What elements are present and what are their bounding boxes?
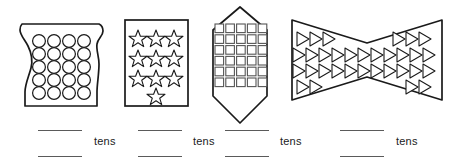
square-icon bbox=[215, 78, 224, 87]
square-icon bbox=[237, 56, 246, 65]
square-icon bbox=[237, 35, 246, 44]
circle-icon bbox=[78, 61, 91, 74]
answer-blank-bottom[interactable] bbox=[340, 156, 384, 157]
answer-blank-bottom[interactable] bbox=[225, 156, 269, 157]
square-icon bbox=[237, 46, 246, 55]
square-icon bbox=[215, 67, 224, 76]
square-icon bbox=[237, 24, 246, 33]
square-icon bbox=[226, 24, 235, 33]
circle-icon bbox=[48, 48, 61, 61]
circle-icon bbox=[33, 61, 46, 74]
square-icon bbox=[258, 67, 267, 76]
circle-icon bbox=[33, 48, 46, 61]
circle-icon bbox=[48, 35, 61, 48]
problem-4: tens bbox=[287, 0, 453, 163]
square-icon bbox=[237, 67, 246, 76]
square-icon bbox=[215, 56, 224, 65]
tens-label: tens bbox=[94, 135, 116, 148]
circle-icon bbox=[63, 87, 76, 100]
circle-icon bbox=[48, 87, 61, 100]
problem-1: tens bbox=[0, 0, 120, 163]
square-icon bbox=[226, 35, 235, 44]
answer-blank-bottom[interactable] bbox=[38, 156, 82, 157]
circle-icon bbox=[33, 35, 46, 48]
circle-icon bbox=[33, 74, 46, 87]
square-icon bbox=[247, 35, 256, 44]
problem-4-figure bbox=[287, 0, 453, 120]
square-icon bbox=[258, 24, 267, 33]
answer-blank-top[interactable] bbox=[340, 130, 384, 131]
problem-1-answer: tens bbox=[0, 120, 120, 163]
answer-blank-top[interactable] bbox=[138, 130, 182, 131]
circle-icon bbox=[78, 48, 91, 61]
square-icon bbox=[237, 78, 246, 87]
square-icon bbox=[226, 67, 235, 76]
circle-icon bbox=[78, 74, 91, 87]
circle-icon bbox=[33, 87, 46, 100]
square-icon bbox=[247, 67, 256, 76]
vase-shape-with-circles bbox=[0, 0, 120, 120]
square-icon bbox=[258, 78, 267, 87]
square-icon bbox=[247, 24, 256, 33]
circle-icon bbox=[63, 61, 76, 74]
problem-1-figure bbox=[0, 0, 120, 120]
answer-blank-top[interactable] bbox=[225, 130, 269, 131]
circle-icon bbox=[78, 35, 91, 48]
square-icon bbox=[247, 78, 256, 87]
square-icon bbox=[215, 46, 224, 55]
circle-icon bbox=[48, 61, 61, 74]
square-icon bbox=[215, 35, 224, 44]
worksheet: tens bbox=[0, 0, 453, 163]
circle-icon bbox=[63, 74, 76, 87]
answer-blank-top[interactable] bbox=[38, 130, 82, 131]
circle-icon bbox=[48, 74, 61, 87]
circle-icon bbox=[78, 87, 91, 100]
circle-icon bbox=[63, 48, 76, 61]
tens-label: tens bbox=[396, 135, 418, 148]
square-icon bbox=[226, 46, 235, 55]
square-icon bbox=[215, 24, 224, 33]
square-icon bbox=[258, 56, 267, 65]
bowtie-shape-with-triangles bbox=[287, 0, 453, 120]
circle-icon bbox=[63, 35, 76, 48]
square-icon bbox=[258, 35, 267, 44]
square-icon bbox=[258, 46, 267, 55]
square-icon bbox=[226, 78, 235, 87]
square-icon bbox=[226, 56, 235, 65]
square-icon bbox=[247, 46, 256, 55]
square-icon bbox=[247, 56, 256, 65]
problem-4-answer: tens bbox=[287, 120, 453, 163]
answer-blank-bottom[interactable] bbox=[138, 156, 182, 157]
